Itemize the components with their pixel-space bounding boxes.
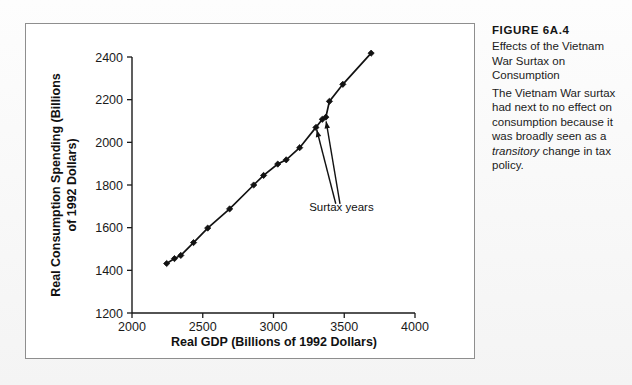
y-tick-label: 1600 xyxy=(95,221,123,235)
x-tick-label: 2500 xyxy=(189,320,217,334)
x-tick-label: 3500 xyxy=(330,320,358,334)
annotation-arrow-head xyxy=(325,121,330,128)
surtax-years-label: Surtax years xyxy=(309,201,374,213)
description-emphasis: transitory xyxy=(492,145,539,157)
figure-page: 1200140016001800200022002400 20002500300… xyxy=(0,0,632,385)
figure-description: The Vietnam War surtax had next to no ef… xyxy=(492,86,620,173)
y-axis-title-line1: Real Consumption Spending (Billions xyxy=(49,73,63,297)
y-tick-label: 2000 xyxy=(95,136,123,150)
x-tick-label: 4000 xyxy=(401,320,429,334)
x-tick-label: 3000 xyxy=(260,320,288,334)
x-tick-label: 2000 xyxy=(118,320,146,334)
y-tick-label: 2400 xyxy=(95,51,123,65)
y-tick-label: 1400 xyxy=(95,264,123,278)
annotation-arrow-line xyxy=(317,130,336,204)
description-part1: The Vietnam War surtax had next to no ef… xyxy=(492,87,615,143)
y-tick-label: 1800 xyxy=(95,179,123,193)
figure-number: FIGURE 6A.4 xyxy=(492,24,620,36)
y-axis-ticks: 1200140016001800200022002400 xyxy=(95,51,132,321)
y-tick-label: 1200 xyxy=(95,307,123,321)
y-tick-label: 2200 xyxy=(95,93,123,107)
x-axis-ticks: 20002500300035004000 xyxy=(118,313,429,334)
figure-title: Effects of the Vietnam War Surtax on Con… xyxy=(492,39,620,83)
surtax-annotation-arrows xyxy=(316,121,340,203)
figure-caption: FIGURE 6A.4 Effects of the Vietnam War S… xyxy=(492,24,620,173)
x-axis-title: Real GDP (Billions of 1992 Dollars) xyxy=(171,335,377,349)
figure-box: 1200140016001800200022002400 20002500300… xyxy=(25,23,475,359)
consumption-vs-gdp-chart: 1200140016001800200022002400 20002500300… xyxy=(26,24,474,358)
chart-axes xyxy=(132,57,415,313)
y-axis-title-line2: of 1992 Dollars) xyxy=(65,138,79,231)
data-point-markers xyxy=(164,50,375,267)
